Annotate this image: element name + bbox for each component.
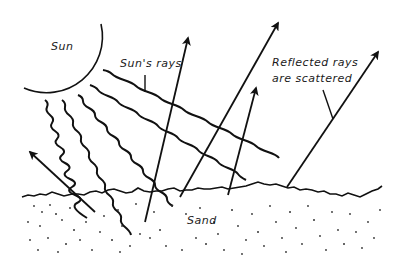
sand-reflection-diagram: Sun Sun's rays Reflected rays are scatte… <box>0 0 406 266</box>
reflected-rays-label-line2: are scattered <box>272 72 352 85</box>
reflected-ray-arrow-3 <box>180 23 278 197</box>
sand-label: Sand <box>187 214 217 227</box>
sun-label: Sun <box>51 40 73 53</box>
sun-icon <box>24 24 102 93</box>
incoming-ray-3 <box>78 95 173 206</box>
sand-surface-line <box>22 182 382 197</box>
reflected-rays-leader-line <box>323 90 333 119</box>
incoming-ray-4 <box>90 85 246 180</box>
incoming-ray-1 <box>45 100 87 218</box>
reflected-rays-label-line1: Reflected rays <box>272 56 358 69</box>
suns-rays-label: Sun's rays <box>120 57 182 70</box>
sand-texture <box>27 203 381 255</box>
incoming-ray-2 <box>62 100 131 235</box>
